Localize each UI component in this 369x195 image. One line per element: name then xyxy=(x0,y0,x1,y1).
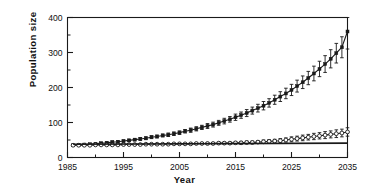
data-point-square xyxy=(251,109,254,112)
data-point-square xyxy=(195,127,198,130)
data-point-square xyxy=(307,77,310,80)
data-point-square xyxy=(346,30,349,33)
data-point-square xyxy=(184,130,187,133)
data-point-circle xyxy=(318,134,322,138)
data-point-circle xyxy=(346,130,350,134)
data-point-square xyxy=(273,98,276,101)
data-point-square xyxy=(217,121,220,124)
data-point-square xyxy=(200,126,203,129)
series-line xyxy=(73,32,347,146)
data-point-square xyxy=(133,138,136,141)
data-point-square xyxy=(228,118,231,121)
data-point-square xyxy=(301,81,304,84)
data-point-square xyxy=(223,120,226,123)
data-point-circle xyxy=(312,135,316,139)
data-point-square xyxy=(256,107,259,110)
data-point-circle xyxy=(323,133,327,137)
data-point-square xyxy=(240,114,243,117)
data-point-square xyxy=(335,52,338,55)
data-point-square xyxy=(161,134,164,137)
chart-plot-area: 0100200300400198519952005201520252035 xyxy=(0,0,369,195)
data-point-circle xyxy=(329,133,333,137)
data-point-square xyxy=(262,104,265,107)
data-point-square xyxy=(156,135,159,138)
data-point-circle xyxy=(334,132,338,136)
data-point-square xyxy=(340,46,343,49)
data-point-square xyxy=(172,132,175,135)
x-tick-label: 2035 xyxy=(338,162,357,172)
y-tick-label: 200 xyxy=(48,83,63,93)
data-point-square xyxy=(329,57,332,60)
data-point-circle xyxy=(290,137,294,141)
y-tick-label: 400 xyxy=(48,13,63,23)
data-point-circle xyxy=(340,131,344,135)
data-point-square xyxy=(150,136,153,139)
figure-container: Population size Year 0100200300400198519… xyxy=(0,0,369,195)
data-point-square xyxy=(284,92,287,95)
data-point-square xyxy=(167,133,170,136)
data-point-circle xyxy=(273,139,277,143)
data-point-square xyxy=(122,140,125,143)
data-point-square xyxy=(290,88,293,91)
y-tick-label: 100 xyxy=(48,118,63,128)
x-tick-label: 2015 xyxy=(226,162,245,172)
data-point-circle xyxy=(284,138,288,142)
data-point-square xyxy=(312,72,315,75)
x-tick-label: 2005 xyxy=(170,162,189,172)
data-point-square xyxy=(296,85,299,88)
data-point-square xyxy=(324,63,327,66)
y-tick-label: 300 xyxy=(48,48,63,58)
data-point-square xyxy=(268,101,271,104)
data-point-circle xyxy=(301,136,305,140)
data-point-square xyxy=(212,123,215,126)
x-tick-label: 2025 xyxy=(282,162,301,172)
data-point-circle xyxy=(278,139,282,143)
data-point-square xyxy=(245,112,248,115)
data-point-square xyxy=(189,129,192,132)
data-point-square xyxy=(279,95,282,98)
x-tick-label: 1995 xyxy=(114,162,133,172)
plot-frame xyxy=(68,18,348,158)
data-point-square xyxy=(206,125,209,128)
data-point-square xyxy=(139,137,142,140)
data-point-square xyxy=(128,139,131,142)
data-point-square xyxy=(318,67,321,70)
y-axis-label: Population size xyxy=(27,0,38,110)
data-point-circle xyxy=(295,137,299,141)
x-axis-label: Year xyxy=(0,174,369,185)
series-line xyxy=(73,143,347,144)
data-point-square xyxy=(144,137,147,140)
x-tick-label: 1985 xyxy=(58,162,77,172)
data-point-circle xyxy=(306,135,310,139)
data-point-square xyxy=(178,131,181,134)
data-point-square xyxy=(234,116,237,119)
